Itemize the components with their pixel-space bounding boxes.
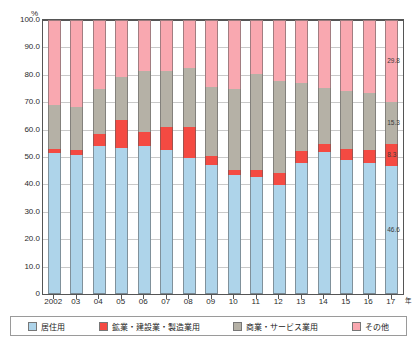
bar-08: [183, 20, 196, 294]
bar-segment: [363, 150, 376, 162]
bar-segment: [138, 71, 151, 132]
bar-segment: [160, 150, 173, 294]
bar-segment: [250, 177, 263, 294]
bar-segment: [183, 158, 196, 294]
bar-segment: [340, 91, 353, 149]
y-tick-label: 20.0: [4, 234, 40, 243]
bar-segment: [273, 173, 286, 185]
bar-segment: [205, 165, 218, 294]
legend-label: 居住用: [41, 321, 65, 332]
legend-item-1[interactable]: 居住用: [28, 321, 65, 332]
bar-segment: [205, 20, 218, 87]
legend-item-2[interactable]: 鉱業・建設業・製造業用: [99, 321, 200, 332]
x-axis-tick: [211, 295, 212, 299]
y-tick-label: 90.0: [4, 42, 40, 51]
legend-label: 鉱業・建設業・製造業用: [112, 321, 200, 332]
value-label: 8.3: [387, 152, 396, 159]
bar-segment: [93, 20, 106, 89]
legend-item-4[interactable]: その他: [352, 321, 389, 332]
bar-segment: [48, 153, 61, 294]
x-axis-tick: [98, 295, 99, 299]
bar-segment: [318, 88, 331, 144]
plot-area: 46.68.315.329.8: [42, 19, 404, 295]
x-axis-tick: [256, 295, 257, 299]
bar-segment: [70, 20, 83, 107]
bar-segment: [138, 20, 151, 71]
bar-segment: [273, 185, 286, 294]
bar-segment: [205, 156, 218, 164]
bar-segment: [250, 20, 263, 74]
x-axis-tick: [166, 295, 167, 299]
x-axis-tick: [346, 295, 347, 299]
bar-10: [228, 20, 241, 294]
bar-09: [205, 20, 218, 294]
x-axis-tick: [323, 295, 324, 299]
bar-segment: [273, 81, 286, 173]
bar-11: [250, 20, 263, 294]
bar-2002: [48, 20, 61, 294]
bar-segment: [318, 20, 331, 88]
bar-segment: [295, 151, 308, 163]
y-tick-label: 70.0: [4, 97, 40, 106]
bar-segment: [318, 152, 331, 294]
bar-04: [93, 20, 106, 294]
bar-13: [295, 20, 308, 294]
bar-segment: [93, 146, 106, 294]
y-axis-labels: 010.020.030.040.050.060.070.080.090.0100…: [0, 0, 40, 346]
bar-segment: [183, 68, 196, 127]
y-tick-label: 80.0: [4, 69, 40, 78]
bar-12: [273, 20, 286, 294]
y-tick-label: 50.0: [4, 152, 40, 161]
bar-segment: [183, 20, 196, 68]
x-axis-tick: [53, 295, 54, 299]
x-axis-tick: [391, 295, 392, 299]
bar-segment: [48, 149, 61, 153]
legend-swatch-icon: [233, 322, 242, 331]
bar-segment: [115, 20, 128, 77]
legend-swatch-icon: [99, 322, 108, 331]
bar-segment: [273, 20, 286, 81]
bar-segment: [318, 144, 331, 152]
bar-segment: [363, 163, 376, 294]
bar-segment: [295, 83, 308, 152]
bar-15: [340, 20, 353, 294]
x-axis-tick: [368, 295, 369, 299]
bar-segment: [138, 146, 151, 294]
x-axis-tick: [76, 295, 77, 299]
bar-16: [363, 20, 376, 294]
y-tick-label: 10.0: [4, 261, 40, 270]
legend-item-3[interactable]: 商業・サービス業用: [233, 321, 318, 332]
bar-segment: [160, 71, 173, 127]
bar-segment: [183, 127, 196, 158]
bar-14: [318, 20, 331, 294]
bar-segment: [340, 160, 353, 294]
bar-segment: [228, 20, 241, 89]
chart-legend: 居住用鉱業・建設業・製造業用商業・サービス業用その他: [10, 316, 407, 336]
bar-segment: [48, 20, 61, 105]
x-axis-tick: [233, 295, 234, 299]
bar-segment: [48, 105, 61, 149]
bar-segment: [340, 20, 353, 91]
x-axis-tick: [188, 295, 189, 299]
bar-segment: [295, 163, 308, 294]
y-tick-label: 40.0: [4, 179, 40, 188]
x-axis-tick: [301, 295, 302, 299]
bar-05: [115, 20, 128, 294]
x-axis-labels: 2002030405060708091011121314151617: [42, 297, 404, 311]
value-label: 29.8: [387, 58, 400, 65]
bar-segment: [138, 132, 151, 146]
bar-segment: [160, 20, 173, 71]
value-label: 15.3: [387, 120, 400, 127]
y-tick-label: 0: [4, 289, 40, 298]
x-axis-tick: [143, 295, 144, 299]
bar-segment: [228, 89, 241, 170]
bar-06: [138, 20, 151, 294]
plot-inner: 46.68.315.329.8: [43, 20, 403, 294]
bar-segment: [115, 148, 128, 294]
legend-swatch-icon: [28, 322, 37, 331]
bar-segment: [250, 170, 263, 177]
y-tick-label: 100.0: [4, 15, 40, 24]
bar-segment: [250, 74, 263, 170]
x-axis-tick: [121, 295, 122, 299]
legend-label: その他: [365, 321, 389, 332]
